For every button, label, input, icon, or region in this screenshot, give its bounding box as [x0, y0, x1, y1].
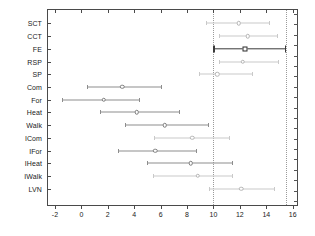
ci-cap-lower: [219, 34, 220, 38]
y-axis-label-icom: ICom: [25, 134, 42, 141]
ci-cap-upper: [196, 149, 197, 153]
ci-cap-upper: [232, 174, 233, 178]
point-marker-iwalk: [195, 174, 200, 179]
x-tick-label: 10: [210, 211, 218, 218]
ci-cap-upper: [208, 123, 209, 127]
right-axis-minor-tick: [294, 159, 298, 160]
x-tick: [161, 206, 162, 209]
x-tick: [108, 206, 109, 209]
point-marker-ifor: [153, 148, 158, 153]
right-axis-minor-tick: [294, 108, 298, 109]
y-tick: [48, 125, 51, 126]
ci-cap-upper: [277, 34, 278, 38]
x-tick: [266, 206, 267, 209]
ci-cap-lower: [154, 136, 155, 140]
y-tick: [48, 189, 51, 190]
y-tick: [48, 62, 51, 63]
y-axis-label-ifor: IFor: [29, 147, 42, 154]
confidence-interval-fe: [213, 48, 284, 49]
ci-cap-upper: [285, 45, 286, 52]
x-tick-top: [55, 10, 56, 13]
y-tick: [48, 36, 51, 37]
ci-cap-upper: [274, 187, 275, 191]
x-tick-label: 0: [79, 211, 83, 218]
right-axis-minor-tick: [294, 56, 298, 57]
y-axis-label-cct: CCT: [27, 33, 42, 40]
right-axis-minor-tick: [294, 170, 298, 171]
y-axis-label-for: For: [31, 96, 42, 103]
right-axis-minor-tick: [294, 191, 298, 192]
right-axis-minor-tick: [294, 35, 298, 36]
y-axis-label-rsp: RSP: [27, 58, 42, 65]
x-tick-top: [187, 10, 188, 13]
y-tick: [48, 100, 51, 101]
x-tick-label: 12: [236, 211, 244, 218]
ci-cap-upper: [252, 72, 253, 76]
y-tick: [48, 112, 51, 113]
y-axis-label-walk: Walk: [26, 122, 42, 129]
x-tick: [187, 206, 188, 209]
point-marker-cct: [246, 34, 251, 39]
ci-cap-lower: [209, 187, 210, 191]
point-marker-com: [120, 85, 125, 90]
right-axis-minor-tick: [294, 180, 298, 181]
ci-cap-upper: [179, 110, 180, 114]
x-tick-label: 2: [106, 211, 110, 218]
x-tick: [134, 206, 135, 209]
x-tick: [293, 206, 294, 209]
point-marker-iheat: [189, 161, 194, 166]
ci-cap-lower: [199, 72, 200, 76]
y-axis-label-sct: SCT: [28, 20, 42, 27]
forest-plot-figure: SCTCCTFERSPSPComForHeatWalkIComIForIHeat…: [0, 0, 315, 236]
y-tick: [48, 163, 51, 164]
y-tick: [48, 87, 51, 88]
x-tick-top: [81, 10, 82, 13]
x-tick-top: [240, 10, 241, 13]
point-marker-for: [102, 97, 107, 102]
y-axis-label-heat: Heat: [27, 109, 42, 116]
right-axis-minor-tick: [294, 118, 298, 119]
y-axis-label-com: Com: [27, 83, 42, 90]
y-tick: [48, 138, 51, 139]
y-axis-label-sp: SP: [32, 71, 42, 78]
right-axis-minor-tick: [294, 97, 298, 98]
ci-cap-upper: [161, 85, 162, 89]
y-axis-label-iwalk: IWalk: [24, 172, 42, 179]
x-tick-top: [213, 10, 214, 13]
right-axis-minor-tick: [294, 201, 298, 202]
x-tick-label: 4: [132, 211, 136, 218]
x-tick-label: 6: [159, 211, 163, 218]
x-tick: [240, 206, 241, 209]
y-tick: [48, 23, 51, 24]
right-axis-minor-tick: [294, 87, 298, 88]
x-tick: [55, 206, 56, 209]
point-marker-rsp: [240, 59, 245, 64]
right-axis-minor-tick: [294, 139, 298, 140]
point-marker-sct: [236, 21, 241, 26]
ci-cap-lower: [153, 174, 154, 178]
point-marker-walk: [162, 123, 167, 128]
x-tick-label: -2: [52, 211, 58, 218]
ci-cap-lower: [219, 60, 220, 64]
confidence-interval-rsp: [219, 61, 278, 62]
y-tick: [48, 49, 51, 50]
x-tick-top: [108, 10, 109, 13]
confidence-interval-iwalk: [153, 175, 232, 176]
reference-line-1: [286, 10, 287, 205]
y-axis-label-lvn: LVN: [29, 185, 42, 192]
point-marker-icom: [190, 136, 195, 141]
confidence-interval-sp: [199, 74, 252, 75]
ci-cap-lower: [147, 161, 148, 165]
point-marker-heat: [135, 110, 140, 115]
right-axis-minor-tick: [294, 149, 298, 150]
ci-cap-lower: [118, 149, 119, 153]
x-tick-top: [161, 10, 162, 13]
point-marker-lvn: [239, 186, 244, 191]
right-axis-minor-tick: [294, 24, 298, 25]
ci-cap-upper: [269, 21, 270, 25]
x-tick-top: [266, 10, 267, 13]
ci-cap-lower: [125, 123, 126, 127]
ci-cap-upper: [229, 136, 230, 140]
right-axis-minor-tick: [294, 14, 298, 15]
y-axis-label-iheat: IHeat: [25, 160, 42, 167]
